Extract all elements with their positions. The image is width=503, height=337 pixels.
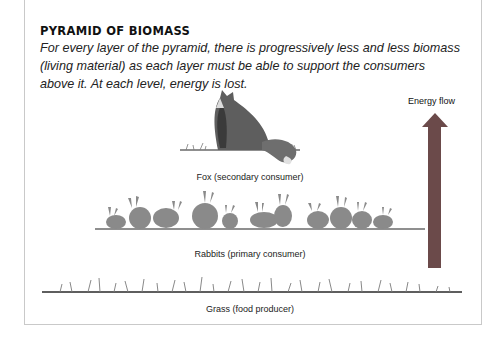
rabbits-label: Rabbits (primary consumer) — [170, 249, 330, 259]
pyramid-illustration — [0, 0, 503, 337]
energy-flow-arrow — [422, 113, 448, 268]
grass-illustration — [42, 277, 462, 292]
fox-label: Fox (secondary consumer) — [180, 172, 320, 182]
fox-illustration — [180, 90, 300, 164]
grass-label: Grass (food producer) — [190, 304, 310, 314]
energy-flow-label: Energy flow — [408, 96, 455, 106]
rabbits-illustration — [95, 191, 425, 229]
